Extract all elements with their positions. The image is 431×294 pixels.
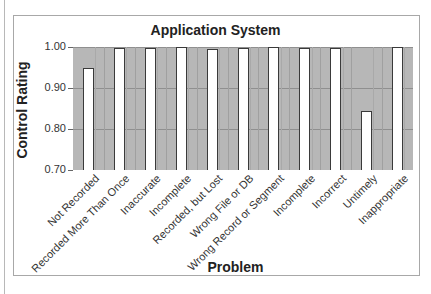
gridline-vertical: [228, 47, 229, 170]
plot-area: [73, 47, 413, 170]
y-tick-label: 0.70: [30, 163, 66, 175]
gridline-vertical: [197, 47, 198, 170]
y-axis-title: Control Rating: [14, 61, 30, 158]
gridline-vertical-minor: [343, 47, 344, 170]
bar: [299, 48, 310, 170]
gridline-vertical-minor: [157, 47, 158, 170]
bar: [83, 68, 94, 171]
gridline-vertical: [166, 47, 167, 170]
page-margin-rule: [4, 0, 5, 294]
gridline-vertical-minor: [404, 47, 405, 170]
bar: [268, 47, 279, 170]
y-tick-mark: [68, 170, 73, 171]
y-tick-label: 0.80: [30, 122, 66, 134]
y-tick-label: 0.90: [30, 81, 66, 93]
gridline-vertical: [382, 47, 383, 170]
bar: [207, 49, 218, 170]
chart-title: Application System: [0, 22, 431, 38]
gridline-vertical-minor: [126, 47, 127, 170]
gridline-vertical: [351, 47, 352, 170]
gridline-vertical-minor: [188, 47, 189, 170]
gridline-vertical: [135, 47, 136, 170]
gridline-vertical: [289, 47, 290, 170]
bar: [145, 48, 156, 170]
gridline-vertical: [104, 47, 105, 170]
gridline-vertical: [258, 47, 259, 170]
bar: [114, 48, 125, 170]
bar: [330, 48, 341, 170]
x-axis-title: Problem: [0, 259, 431, 275]
gridline-vertical-minor: [250, 47, 251, 170]
gridline-vertical-minor: [219, 47, 220, 170]
y-tick-label: 1.00: [30, 40, 66, 52]
bar: [361, 111, 372, 170]
gridline-vertical-minor: [95, 47, 96, 170]
bar: [238, 48, 249, 170]
bar: [392, 47, 403, 170]
bar: [176, 47, 187, 170]
gridline-vertical: [320, 47, 321, 170]
gridline-vertical-minor: [312, 47, 313, 170]
gridline-vertical-minor: [373, 47, 374, 170]
gridline-vertical-minor: [281, 47, 282, 170]
